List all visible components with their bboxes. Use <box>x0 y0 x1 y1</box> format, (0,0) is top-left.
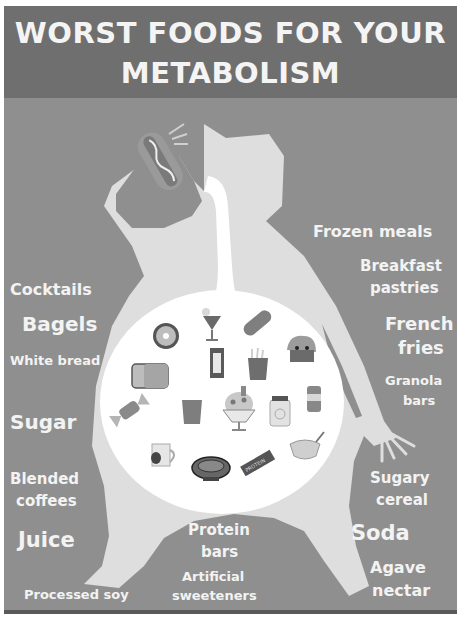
label-sugary: Sugary <box>370 470 430 487</box>
label-granola: Granola <box>385 374 442 389</box>
label-agave: Agave <box>370 559 426 577</box>
label-sweeteners: sweeteners <box>172 589 257 604</box>
label-nectar: nectar <box>372 582 430 600</box>
title-line-1: WORST FOODS FOR YOUR <box>4 16 457 50</box>
donut-icon <box>153 323 179 349</box>
label-french: French <box>385 314 454 335</box>
label-cocktails: Cocktails <box>10 281 92 299</box>
cupcake-icon <box>287 336 316 362</box>
label-pastries: pastries <box>370 280 439 297</box>
title-line-2: METABOLISM <box>4 56 457 90</box>
label-bagels: Bagels <box>22 313 97 336</box>
hot-dog-sprinkles <box>169 124 188 144</box>
title-banner: WORST FOODS FOR YOUR METABOLISM <box>4 6 457 98</box>
label-blended: Blended <box>10 471 79 488</box>
label-sugar: Sugar <box>10 411 76 434</box>
infographic-poster: PROTEIN WORST FOODS FOR YOUR METABOLISM … <box>4 6 457 614</box>
candy-bar-icon <box>210 348 224 378</box>
jar-icon <box>270 396 290 426</box>
soda-can-icon <box>307 386 321 412</box>
label-protein-bars: bars <box>201 544 238 561</box>
label-artificial: Artificial <box>182 570 244 585</box>
label-white-bread: White bread <box>10 354 100 369</box>
label-juice: Juice <box>18 528 75 552</box>
label-breakfast: Breakfast <box>360 258 442 275</box>
label-soda: Soda <box>351 521 410 545</box>
label-processed-soy: Processed soy <box>24 588 129 603</box>
bread-loaf-icon <box>132 364 168 388</box>
label-protein: Protein <box>188 522 250 539</box>
bottom-border <box>4 610 457 614</box>
label-fries: fries <box>398 338 444 359</box>
label-granola-bars: bars <box>403 394 435 409</box>
label-coffees: coffees <box>16 493 77 510</box>
juice-glass-icon <box>182 400 202 424</box>
label-cereal: cereal <box>376 492 428 509</box>
label-frozen-meals: Frozen meals <box>313 223 432 241</box>
